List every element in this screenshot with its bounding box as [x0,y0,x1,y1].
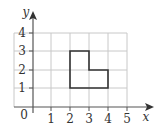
origin-label: 0 [20,108,28,122]
ticks [29,33,127,111]
x-tick-label: 3 [85,112,93,126]
x-tick-label: 1 [47,112,55,126]
coordinate-diagram: 0 1 2 3 4 5 x 1 2 3 4 y [0,0,164,133]
y-tick-label: 2 [18,63,26,77]
y-tick-label: 1 [18,81,26,95]
x-tick-label: 2 [66,112,74,126]
y-axis-label: y [22,5,30,19]
x-tick-label: 4 [104,112,112,126]
x-tick-label: 5 [123,112,131,126]
y-tick-label: 4 [18,26,26,40]
y-tick-label: 3 [18,44,26,58]
x-axis-label: x [143,110,150,124]
